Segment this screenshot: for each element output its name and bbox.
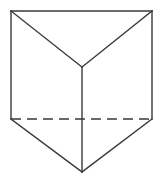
triangular-prism-drawing: [0, 0, 162, 179]
geometric-figure-canvas: [0, 0, 162, 179]
drawing-background: [0, 0, 162, 179]
